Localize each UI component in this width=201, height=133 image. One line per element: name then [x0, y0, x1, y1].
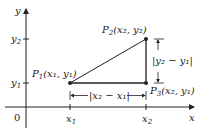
x2-tick-label: x2	[142, 113, 153, 126]
point-p1	[68, 81, 72, 85]
y-axis-label: y	[14, 5, 21, 16]
p3-label: P3(x₂, y₁)	[149, 85, 195, 98]
point-p2	[144, 37, 148, 41]
point-p3	[144, 81, 148, 85]
y1-tick-label: y1	[10, 77, 21, 90]
origin-label: 0	[14, 112, 20, 123]
x-axis-label: x	[189, 112, 195, 123]
hypotenuse-p1-p2	[70, 39, 146, 83]
distance-formula-diagram: y x 0 x1 x2 y1 y2 P1(x₁, y₁) P2(x₂, y₂) …	[0, 0, 201, 133]
x1-tick-label: x1	[66, 113, 76, 126]
horizontal-distance-label: |x₂ − x₁|	[89, 90, 130, 102]
p1-label: P1(x₁, y₁)	[31, 68, 77, 81]
y2-tick-label: y2	[10, 33, 22, 46]
p2-label: P2(x₂, y₂)	[101, 24, 147, 37]
vertical-distance-label: |y₂ − y₁|	[152, 55, 193, 67]
